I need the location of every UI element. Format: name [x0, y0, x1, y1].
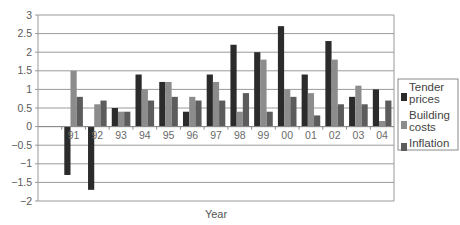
bar-inflation [290, 97, 296, 127]
bar-building-costs [165, 82, 171, 127]
bar-building-costs [237, 112, 243, 127]
x-tick-label: 94 [139, 129, 151, 141]
x-tick-label: 04 [376, 129, 388, 141]
y-axis-labels: 32.521.510.50−0.5−1−1.5−2 [11, 9, 32, 207]
bar-tender-prices [136, 75, 142, 127]
y-tick-label: 1 [26, 83, 32, 95]
y-tick-label: −2 [20, 195, 32, 207]
bar-building-costs [355, 86, 361, 127]
bar-inflation [362, 104, 368, 126]
y-tick-label: 0.5 [17, 102, 32, 114]
bar-building-costs [142, 89, 148, 126]
legend-label: prices [409, 93, 440, 105]
y-tick-label: 1.5 [17, 64, 32, 76]
bar-tender-prices [183, 112, 189, 127]
x-tick-label: 95 [163, 129, 175, 141]
x-tick-label: 02 [329, 129, 341, 141]
bar-inflation [314, 115, 320, 126]
bar-building-costs [71, 71, 77, 127]
bar-tender-prices [230, 45, 236, 127]
bar-building-costs [118, 112, 124, 127]
y-tick-label: 2.5 [17, 27, 32, 39]
bar-building-costs [332, 60, 338, 127]
bar-inflation [148, 101, 154, 127]
bar-inflation [267, 112, 273, 127]
legend-label: costs [409, 121, 436, 133]
legend-swatch [401, 143, 407, 151]
chart: 32.521.510.50−0.5−1−1.5−2 91929394959697… [0, 0, 460, 225]
bar-building-costs [94, 104, 100, 126]
x-tick-label: 92 [91, 129, 103, 141]
y-tick-label: 2 [26, 46, 32, 58]
bar-tender-prices [302, 75, 308, 127]
bar-tender-prices [207, 75, 213, 127]
bar-inflation [172, 97, 178, 127]
x-axis-labels: 9192939495969798990001020304 [68, 129, 388, 141]
y-tick-label: 0 [26, 120, 32, 132]
x-tick-label: 03 [353, 129, 365, 141]
legend: TenderpricesBuildingcostsInflation [398, 79, 458, 151]
legend-swatch [401, 93, 407, 101]
bar-building-costs [284, 89, 290, 126]
bar-tender-prices [349, 97, 355, 127]
bar-inflation [195, 101, 201, 127]
bar-inflation [338, 104, 344, 126]
x-tick-label: 93 [115, 129, 127, 141]
bar-inflation [77, 97, 83, 127]
bar-building-costs [189, 97, 195, 127]
bar-tender-prices [112, 108, 118, 127]
y-tick-label: −0.5 [11, 139, 32, 151]
bar-inflation [385, 101, 391, 127]
bar-inflation [243, 93, 249, 126]
bar-tender-prices [159, 82, 165, 127]
legend-label: Tender [409, 81, 444, 93]
bar-tender-prices [373, 89, 379, 126]
bar-tender-prices [325, 41, 331, 127]
x-axis-title: Year [205, 208, 228, 220]
x-tick-label: 01 [305, 129, 317, 141]
bar-tender-prices [278, 26, 284, 126]
bar-tender-prices [254, 52, 260, 126]
bar-building-costs [308, 93, 314, 126]
x-tick-label: 96 [186, 129, 198, 141]
x-tick-label: 98 [234, 129, 246, 141]
legend-label: Inflation [409, 137, 449, 149]
x-tick-label: 00 [281, 129, 293, 141]
bar-building-costs [260, 60, 266, 127]
x-tick-label: 91 [68, 129, 80, 141]
bar-inflation [219, 101, 225, 127]
bar-building-costs [379, 121, 385, 127]
bar-building-costs [213, 82, 219, 127]
bar-inflation [124, 112, 130, 127]
x-tick-label: 99 [258, 129, 270, 141]
legend-label: Building [409, 109, 450, 121]
y-tick-label: −1 [20, 157, 32, 169]
x-tick-label: 97 [210, 129, 222, 141]
y-tick-label: −1.5 [11, 176, 32, 188]
legend-swatch [401, 121, 407, 129]
bar-inflation [100, 101, 106, 127]
y-tick-label: 3 [26, 9, 32, 21]
